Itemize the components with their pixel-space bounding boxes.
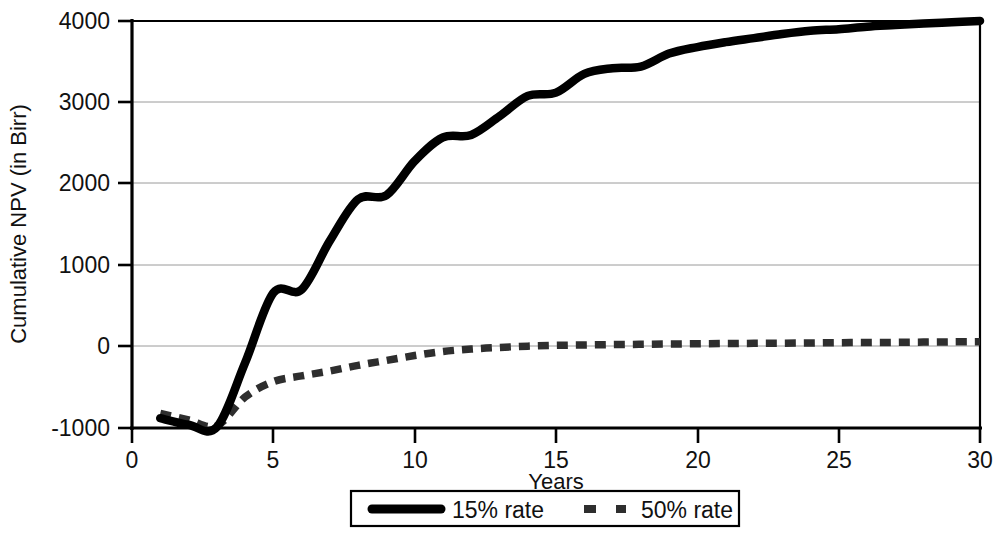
y-tick-label-4000: 4000: [59, 8, 110, 34]
y-tick-label-3000: 3000: [59, 89, 110, 115]
x-tick-label-25: 25: [826, 447, 852, 473]
legend-label-15-rate: 15% rate: [452, 497, 544, 523]
y-tick-label-2000: 2000: [59, 170, 110, 196]
y-tick-label-neg1000: -1000: [51, 415, 110, 441]
series-line-15-rate: [160, 21, 980, 431]
npv-line-chart: 4000 3000 2000 1000 0 -1000 Cumulative N…: [0, 0, 997, 541]
x-tick-label-5: 5: [267, 447, 280, 473]
gridlines: [132, 21, 980, 346]
legend[interactable]: 15% rate 50% rate: [351, 491, 739, 526]
y-tick-label-1000: 1000: [59, 252, 110, 278]
x-axis: 0 5 10 15 20 25 30 Years: [126, 428, 993, 494]
data-series: [160, 21, 980, 431]
legend-label-50-rate: 50% rate: [641, 497, 733, 523]
x-tick-label-20: 20: [685, 447, 711, 473]
x-tick-label-0: 0: [126, 447, 139, 473]
x-tick-label-10: 10: [402, 447, 428, 473]
chart-page: 4000 3000 2000 1000 0 -1000 Cumulative N…: [0, 0, 997, 541]
y-tick-label-0: 0: [97, 333, 110, 359]
x-tick-label-30: 30: [967, 447, 993, 473]
series-line-50-rate: [160, 342, 980, 427]
plot-frame: [132, 21, 980, 428]
y-axis: 4000 3000 2000 1000 0 -1000 Cumulative N…: [6, 8, 132, 441]
y-axis-title: Cumulative NPV (in Birr): [6, 104, 31, 344]
